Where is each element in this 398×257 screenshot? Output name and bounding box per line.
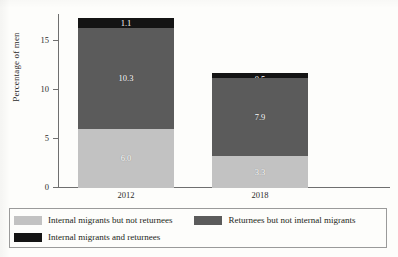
legend-label-internal-and-returnees: Internal migrants and returnees [48,233,160,242]
bar-segment-2012-returnees-only[interactable]: 10.3 [78,28,174,129]
legend-swatch-icon-internal-and-returnees [14,233,42,242]
bar-segment-2012-internal-only[interactable]: 6.0 [78,129,174,188]
x-axis-label-2012: 2012 [78,190,174,200]
bar-segment-2018-returnees-only[interactable]: 7.9 [212,78,308,155]
bar-segment-2012-internal-and-returnees[interactable]: 1.1 [78,18,174,29]
legend-swatch-icon-internal-only [14,216,42,225]
legend-item-internal-migrants-and-returnees[interactable]: Internal migrants and returnees [14,233,160,242]
bar-value-2018-internal-only: 3.3 [255,168,266,177]
bar-value-2012-internal-only: 6.0 [121,154,132,163]
bar-value-2012-internal-and-returnees: 1.1 [121,19,132,28]
legend-item-returnees-not-internal-migrants[interactable]: Returnees but not internal migrants [194,216,355,225]
bar-2018[interactable]: 0.5 7.9 3.3 [212,73,308,188]
bar-2012[interactable]: 1.1 10.3 6.0 [78,18,174,189]
plot-area: Percentage of men 15 10 5 0 1.1 10.3 6 [0,0,398,202]
bars-layer: 1.1 10.3 6.0 0.5 7.9 3.3 [0,0,398,188]
legend: Internal migrants but not returnees Retu… [9,208,387,248]
bar-segment-2018-internal-only[interactable]: 3.3 [212,156,308,188]
legend-row-2: Internal migrants and returnees [14,229,382,246]
legend-label-returnees-only: Returnees but not internal migrants [228,216,355,225]
legend-swatch-icon-returnees-only [194,216,222,225]
x-axis-label-2018: 2018 [212,190,308,200]
legend-row-1: Internal migrants but not returnees Retu… [14,212,382,229]
legend-label-internal-only: Internal migrants but not returnees [48,216,172,225]
legend-item-internal-migrants-not-returnees[interactable]: Internal migrants but not returnees [14,216,172,225]
bar-value-2018-returnees-only: 7.9 [255,113,266,122]
chart-root: Percentage of men 15 10 5 0 1.1 10.3 6 [0,0,398,257]
bar-value-2012-returnees-only: 10.3 [119,74,134,83]
